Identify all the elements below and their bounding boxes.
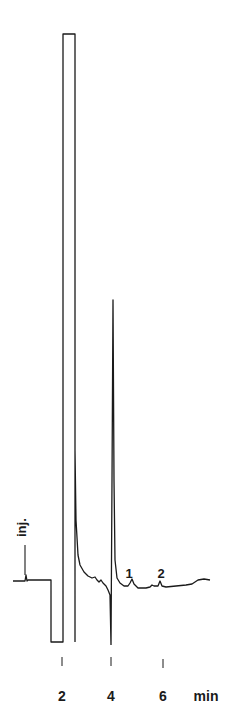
chromatogram-trace <box>13 34 210 645</box>
tick-label-2: 2 <box>58 688 66 704</box>
tick-label-4: 4 <box>107 688 115 704</box>
peak-1-label: 1 <box>125 566 132 581</box>
tick-label-6: 6 <box>159 688 167 704</box>
chromatogram-chart: inj. 1 2 2 4 6 min <box>0 0 231 728</box>
x-unit-label: min <box>194 688 219 704</box>
peak-2-label: 2 <box>157 566 164 581</box>
inj-label: inj. <box>14 518 29 537</box>
